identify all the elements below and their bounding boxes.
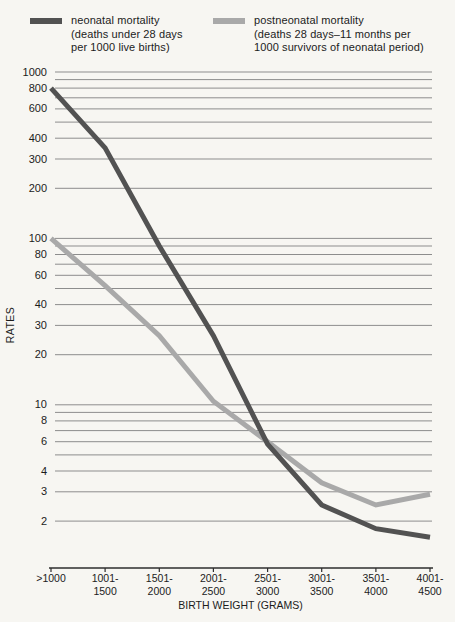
y-tick-label: 20 [35,348,47,360]
y-tick-label: 400 [29,132,47,144]
x-tick-label: 1500 [93,585,117,597]
x-tick-label: 2001- [200,572,227,584]
x-tick-label: 3501- [362,572,389,584]
y-tick-label: 3 [41,485,47,497]
x-tick-label: 2500 [202,585,226,597]
y-tick-label: 200 [29,182,47,194]
gridlines [55,72,432,521]
y-tick-label: 4 [41,465,47,477]
y-tick-label: 6 [41,435,47,447]
x-tick-label: 4001- [417,572,444,584]
y-tick-label: 2 [41,515,47,527]
x-tick-label: 2501- [254,572,281,584]
y-axis-labels: 100080060040030020010080604030201086432 [23,66,47,527]
y-tick-label: 100 [29,232,47,244]
y-tick-label: 300 [29,153,47,165]
x-axis-labels: >10001001-15001501-20002001-25002501-300… [36,572,444,597]
y-tick-label: 40 [35,298,47,310]
x-tick-label: 1501- [146,572,173,584]
y-tick-label: 60 [35,269,47,281]
y-axis-title: RATES [4,307,16,344]
scanned-chart-page: neonatal mortality (deaths under 28 days… [0,0,455,622]
mortality-by-birth-weight-chart: 100080060040030020010080604030201086432R… [0,0,455,622]
x-tick-label: 2000 [148,585,172,597]
y-tick-label: 80 [35,248,47,260]
y-tick-label: 600 [29,102,47,114]
x-tick-label: 4000 [364,585,388,597]
x-tick-label: 4500 [418,585,442,597]
x-tick-label: 3500 [310,585,334,597]
x-tick-label: 3000 [256,585,280,597]
y-tick-label: 1000 [23,66,47,78]
y-tick-label: 8 [41,414,47,426]
y-tick-label: 10 [35,398,47,410]
x-tick-label: 3001- [308,572,335,584]
x-axis-title: BIRTH WEIGHT (GRAMS) [178,599,302,611]
series-line-postneonatal-mortality [51,238,430,505]
x-tick-label: 1001- [92,572,119,584]
series-line-neonatal-mortality [51,88,430,537]
y-tick-label: 800 [29,82,47,94]
x-tick-label: >1000 [36,572,66,584]
y-tick-label: 30 [35,319,47,331]
